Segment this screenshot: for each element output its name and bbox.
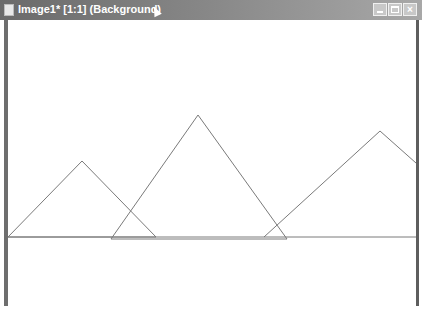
triangle-middle <box>111 115 287 239</box>
image-canvas[interactable] <box>0 0 422 314</box>
triangle-right <box>264 131 416 237</box>
triangle-left <box>8 161 156 237</box>
